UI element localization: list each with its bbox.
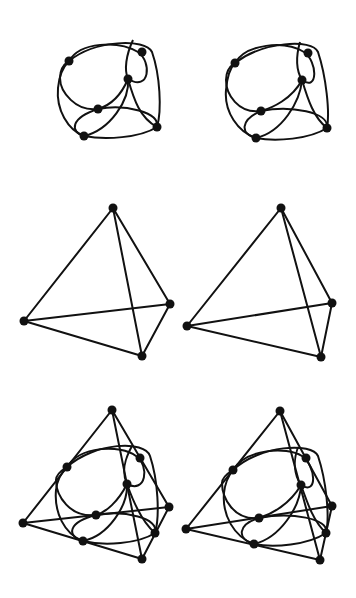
- vertex-dot: [92, 511, 101, 520]
- vertex-dot: [302, 454, 311, 463]
- vertex-dot: [255, 514, 264, 523]
- vertex-dot: [138, 48, 147, 57]
- vertex-dot: [276, 407, 285, 416]
- vertex-dot: [151, 529, 160, 538]
- vertex-dot: [231, 59, 240, 68]
- vertex-dot: [65, 57, 74, 66]
- tetrahedron-edge: [187, 208, 281, 326]
- tetrahedron-edge: [281, 208, 332, 303]
- sphere-figure-left: [58, 40, 162, 141]
- vertex-dot: [323, 124, 332, 133]
- sphere-curve: [56, 467, 155, 544]
- vertex-dot: [304, 49, 313, 58]
- vertex-dot: [94, 105, 103, 114]
- tetrahedron-edge: [24, 304, 170, 321]
- vertex-dot: [250, 540, 259, 549]
- tetrahedron-edge: [142, 304, 170, 356]
- vertex-dot: [20, 317, 29, 326]
- vertex-dot: [153, 123, 162, 132]
- vertex-dot: [63, 463, 72, 472]
- vertex-dot: [316, 556, 325, 565]
- vertex-dot: [124, 75, 133, 84]
- vertex-dot: [138, 352, 147, 361]
- tetrahedron-left: [20, 204, 175, 361]
- vertex-dot: [165, 503, 174, 512]
- diagram-canvas: [0, 0, 356, 598]
- vertex-dot: [108, 406, 117, 415]
- tetrahedron-edge: [113, 208, 142, 356]
- sphere-curve: [60, 61, 128, 109]
- vertex-dot: [136, 454, 145, 463]
- sphere-curve: [69, 45, 147, 83]
- vertex-dot: [252, 134, 261, 143]
- vertex-dot: [328, 502, 337, 511]
- vertex-dot: [297, 481, 306, 490]
- combined-figure-left: [19, 406, 174, 564]
- vertex-dot: [277, 204, 286, 213]
- tetrahedron-edge: [24, 321, 142, 356]
- vertex-dot: [298, 76, 307, 85]
- vertex-dot: [229, 466, 238, 475]
- vertex-dot: [182, 525, 191, 534]
- vertex-dot: [257, 107, 266, 116]
- vertex-dot: [79, 537, 88, 546]
- vertex-dot: [322, 529, 331, 538]
- tetrahedron-edge: [321, 303, 332, 357]
- vertex-dot: [328, 299, 337, 308]
- vertex-dot: [138, 555, 147, 564]
- sphere-curve: [226, 63, 302, 111]
- sphere-curve: [235, 44, 328, 128]
- sphere-curve: [56, 467, 127, 515]
- sphere-figure-right: [226, 42, 332, 143]
- vertex-dot: [80, 132, 89, 141]
- vertex-dot: [109, 204, 118, 213]
- tetrahedron-edge: [281, 208, 321, 357]
- sphere-curve: [58, 61, 157, 138]
- vertex-dot: [166, 300, 175, 309]
- vertex-dot: [183, 322, 192, 331]
- vertex-dot: [19, 519, 28, 528]
- combined-figure-right: [182, 407, 337, 565]
- vertex-dot: [317, 353, 326, 362]
- tetrahedron-edge: [24, 208, 113, 321]
- vertex-dot: [123, 480, 132, 489]
- tetrahedron-edge: [187, 326, 321, 357]
- tetrahedron-right: [183, 204, 337, 362]
- sphere-curve: [222, 470, 301, 518]
- sphere-curve: [67, 449, 144, 486]
